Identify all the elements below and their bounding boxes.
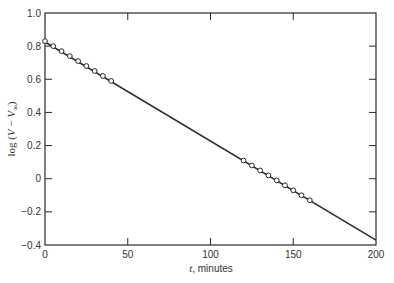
x-axis-ticks: 050100150200 — [42, 13, 385, 260]
data-point — [299, 193, 304, 198]
chart: 050100150200 1.00.80.60.40.20−0.2−0.4 t,… — [0, 0, 394, 283]
data-point — [84, 64, 89, 69]
data-point — [249, 163, 254, 168]
x-tick-label: 150 — [285, 249, 302, 260]
data-point — [274, 178, 279, 183]
data-point — [51, 44, 56, 49]
y-tick-label: 0 — [35, 173, 41, 184]
x-tick-label: 100 — [202, 249, 219, 260]
data-point — [241, 158, 246, 163]
y-tick-label: 0.4 — [27, 107, 41, 118]
data-point — [101, 74, 106, 79]
y-tick-label: 0.2 — [27, 140, 41, 151]
x-tick-label: 200 — [368, 249, 385, 260]
y-axis-label: log (V − V∞) — [5, 101, 20, 156]
data-point — [76, 59, 81, 64]
data-point — [307, 198, 312, 203]
y-tick-label: 0.6 — [27, 74, 41, 85]
data-point — [266, 173, 271, 178]
data-point — [59, 49, 64, 54]
x-tick-label: 0 — [42, 249, 48, 260]
x-tick-label: 50 — [122, 249, 134, 260]
data-point — [109, 79, 114, 84]
x-axis-label: t, minutes — [189, 262, 233, 274]
y-axis-ticks: 1.00.80.60.40.20−0.2−0.4 — [21, 8, 376, 251]
y-tick-label: 0.8 — [27, 41, 41, 52]
data-point — [283, 183, 288, 188]
data-point — [291, 188, 296, 193]
data-point — [258, 168, 263, 173]
y-tick-label: −0.4 — [21, 240, 41, 251]
data-point — [67, 54, 72, 59]
data-point — [43, 39, 48, 44]
y-tick-label: 1.0 — [27, 8, 41, 19]
y-tick-label: −0.2 — [21, 206, 41, 217]
data-point — [92, 69, 97, 74]
